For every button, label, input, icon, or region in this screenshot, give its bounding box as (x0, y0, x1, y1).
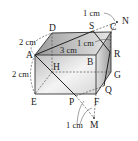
label-M: M (90, 120, 99, 130)
label-E: E (31, 97, 37, 107)
label-Q: Q (105, 85, 112, 95)
label-N: N (122, 16, 129, 26)
dimension-AD: 2 cm (19, 37, 36, 47)
label-P: P (69, 97, 74, 107)
label-D: D (49, 23, 56, 33)
label-F: F (94, 97, 99, 107)
label-B: B (87, 57, 93, 67)
dimension-CN: 1 cm (83, 8, 100, 18)
label-C: C (110, 22, 116, 32)
cuboid-diagram: D S C N A B R H G Q E P F M 2 cm 2 cm 3 … (0, 0, 138, 141)
label-G: G (114, 70, 121, 80)
dimension-AB: 3 cm (60, 45, 77, 55)
label-A: A (26, 50, 33, 60)
dimension-CR: 1 cm (77, 38, 94, 48)
label-R: R (114, 49, 121, 59)
label-H: H (53, 62, 60, 72)
dimension-AE: 2 cm (12, 69, 29, 79)
label-S: S (89, 21, 94, 31)
